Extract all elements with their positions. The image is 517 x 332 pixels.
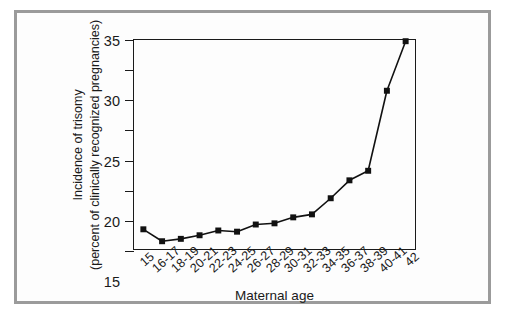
data-point-marker	[140, 226, 146, 232]
trisomy-incidence-markers	[140, 38, 408, 244]
data-point-marker	[309, 211, 315, 217]
data-point-marker	[178, 236, 184, 242]
y-axis-tick: 5	[125, 221, 134, 222]
data-series-line	[134, 40, 415, 249]
y-axis-tick: 10	[125, 191, 134, 192]
y-axis-tick-label: 35	[104, 34, 120, 49]
x-axis-title: Maternal age	[133, 288, 416, 303]
data-point-marker	[328, 195, 334, 201]
y-axis-tick: 35	[125, 40, 134, 41]
data-point-marker	[346, 177, 352, 183]
data-point-marker	[403, 38, 409, 44]
y-axis-tick: 30	[125, 70, 134, 71]
y-axis-title-line2: (percent of clinically recognized pregna…	[87, 19, 104, 269]
y-axis-tick-label: 20	[104, 215, 120, 230]
y-axis-tick-label: 15	[104, 275, 120, 290]
data-point-marker	[365, 168, 371, 174]
data-point-marker	[290, 214, 296, 220]
figure-canvas: Incidence of trisomy (percent of clinica…	[0, 0, 517, 332]
data-point-marker	[159, 238, 165, 244]
y-axis-tick-label: 30	[104, 94, 120, 109]
data-point-marker	[253, 222, 259, 228]
y-axis-title: Incidence of trisomy (percent of clinica…	[72, 39, 102, 250]
y-axis-tick: 0	[125, 251, 134, 252]
data-point-marker	[215, 228, 221, 234]
y-axis-tick: 20	[125, 130, 134, 131]
y-axis-tick: 25	[125, 100, 134, 101]
data-point-marker	[197, 232, 203, 238]
y-axis-title-line1: Incidence of trisomy	[70, 19, 87, 269]
y-axis-tick: 15	[125, 161, 134, 162]
data-point-marker	[272, 220, 278, 226]
y-axis-tick-label: 25	[104, 154, 120, 169]
data-point-marker	[384, 88, 390, 94]
data-point-marker	[234, 229, 240, 235]
plot-area: 05101520253035 1516-1718-1920-2122-2324-…	[133, 39, 416, 250]
trisomy-incidence-line	[143, 41, 405, 241]
